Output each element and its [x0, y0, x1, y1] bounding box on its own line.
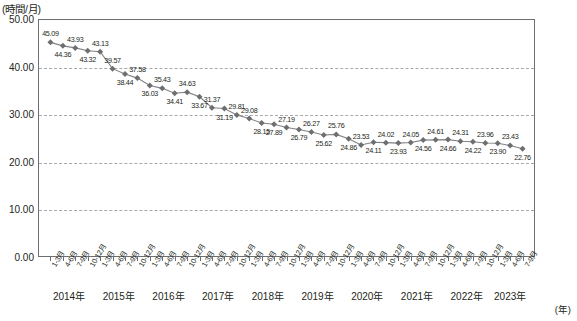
- data-point-label: 43.93: [67, 35, 84, 44]
- data-point-label: 24.31: [452, 128, 469, 137]
- data-point-marker: [358, 142, 364, 148]
- data-point-label: 24.86: [340, 143, 357, 152]
- data-point-marker: [122, 71, 128, 77]
- data-point-marker: [495, 140, 501, 146]
- data-point-label: 35.43: [154, 75, 171, 84]
- data-point-label: 45.09: [42, 29, 59, 38]
- data-point-marker: [457, 138, 463, 144]
- data-point-marker: [346, 136, 352, 142]
- data-point-label: 39.57: [104, 56, 121, 65]
- data-point-label: 27.89: [266, 128, 283, 137]
- data-point-marker: [159, 85, 165, 91]
- data-point-label: 24.02: [378, 130, 395, 139]
- data-point-marker: [482, 140, 488, 146]
- data-point-label: 24.22: [465, 146, 482, 155]
- data-point-marker: [234, 112, 240, 118]
- data-point-label: 26.27: [303, 119, 320, 128]
- x-axis-year-label: 2021年: [401, 288, 433, 303]
- data-point-label: 24.66: [440, 144, 457, 153]
- data-point-label: 36.03: [142, 89, 159, 98]
- data-point-marker: [47, 39, 53, 45]
- data-point-label: 23.93: [390, 147, 407, 156]
- y-axis-tick-label: 30.00: [0, 109, 34, 120]
- data-point-marker: [408, 140, 414, 146]
- data-point-label: 38.44: [117, 78, 134, 87]
- x-axis-year-label: 2018年: [252, 288, 284, 303]
- data-point-label: 24.11: [365, 146, 381, 155]
- data-point-label: 25.62: [316, 139, 333, 148]
- data-point-marker: [321, 132, 327, 138]
- data-point-marker: [221, 106, 227, 112]
- y-axis-tick-label: 10.00: [0, 204, 34, 215]
- data-point-label: 34.41: [166, 97, 183, 106]
- data-point-label: 24.61: [427, 127, 444, 136]
- data-point-marker: [333, 131, 339, 137]
- x-axis-year-label: 2019年: [301, 288, 333, 303]
- data-point-label: 25.76: [328, 121, 345, 130]
- data-point-marker: [308, 129, 314, 135]
- data-point-marker: [85, 48, 91, 54]
- x-axis-year-label: 2020年: [351, 288, 383, 303]
- data-point-label: 43.32: [79, 55, 96, 64]
- data-point-marker: [72, 45, 78, 51]
- data-point-marker: [60, 43, 66, 49]
- data-point-marker: [296, 126, 302, 132]
- y-axis-tick-label: 40.00: [0, 61, 34, 72]
- x-axis-year-label: 2014年: [53, 288, 85, 303]
- data-point-marker: [172, 90, 178, 96]
- data-point-marker: [271, 121, 277, 127]
- data-point-label: 27.19: [278, 115, 295, 124]
- data-point-marker: [184, 89, 190, 95]
- data-point-marker: [520, 146, 526, 152]
- x-axis-unit-label: (年): [555, 302, 571, 316]
- data-point-label: 44.36: [55, 50, 72, 59]
- data-point-label: 24.56: [415, 144, 432, 153]
- data-point-marker: [507, 142, 513, 148]
- data-point-label: 31.19: [216, 113, 233, 122]
- data-point-label: 23.53: [353, 132, 370, 141]
- data-point-label: 43.13: [92, 39, 109, 48]
- data-point-label: 22.76: [514, 153, 531, 162]
- data-point-label: 29.08: [241, 106, 258, 115]
- y-axis-tick-label: 0.00: [0, 252, 34, 263]
- data-point-label: 23.90: [489, 147, 506, 156]
- data-point-marker: [284, 125, 290, 131]
- data-point-marker: [433, 137, 439, 143]
- data-point-label: 37.58: [129, 65, 146, 74]
- x-axis-year-label: 2015年: [103, 288, 135, 303]
- y-axis-tick-label: 20.00: [0, 156, 34, 167]
- data-point-marker: [420, 137, 426, 143]
- data-point-label: 23.43: [502, 132, 519, 141]
- data-point-label: 31.37: [204, 95, 221, 104]
- data-point-marker: [134, 75, 140, 81]
- data-point-label: 26.79: [291, 133, 308, 142]
- data-point-marker: [470, 139, 476, 145]
- data-point-marker: [383, 140, 389, 146]
- data-point-marker: [246, 116, 252, 122]
- data-point-marker: [259, 120, 265, 126]
- data-point-label: 24.05: [403, 130, 420, 139]
- data-point-label: 34.63: [179, 79, 196, 88]
- line-chart: (時間/月) 0.0010.0020.0030.0040.0050.00 45.…: [0, 0, 577, 321]
- x-axis-year-label: 2023年: [494, 288, 526, 303]
- x-axis-year-label: 2016年: [152, 288, 184, 303]
- x-axis-year-label: 2017年: [202, 288, 234, 303]
- data-point-marker: [370, 139, 376, 145]
- x-axis-year-label: 2022年: [451, 288, 483, 303]
- y-axis-tick-label: 50.00: [0, 14, 34, 25]
- data-point-marker: [395, 140, 401, 146]
- data-point-marker: [147, 82, 153, 88]
- data-point-label: 23.96: [477, 130, 494, 139]
- data-point-marker: [445, 137, 451, 143]
